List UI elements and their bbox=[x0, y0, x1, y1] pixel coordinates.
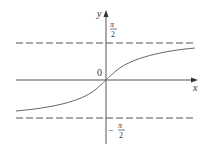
lower-asymptote-numerator: π bbox=[118, 121, 123, 130]
y-axis-arrow-icon bbox=[104, 10, 109, 17]
lower-asymptote-denominator: 2 bbox=[119, 131, 123, 140]
arctan-graph: y x 0 π 2 − π 2 bbox=[0, 0, 214, 149]
upper-asymptote-denominator: 2 bbox=[111, 30, 115, 39]
lower-asymptote-sign: − bbox=[108, 125, 113, 135]
upper-asymptote-numerator: π bbox=[110, 20, 115, 29]
y-axis-label: y bbox=[96, 8, 102, 19]
origin-label: 0 bbox=[97, 67, 102, 78]
x-axis-label: x bbox=[192, 82, 198, 93]
